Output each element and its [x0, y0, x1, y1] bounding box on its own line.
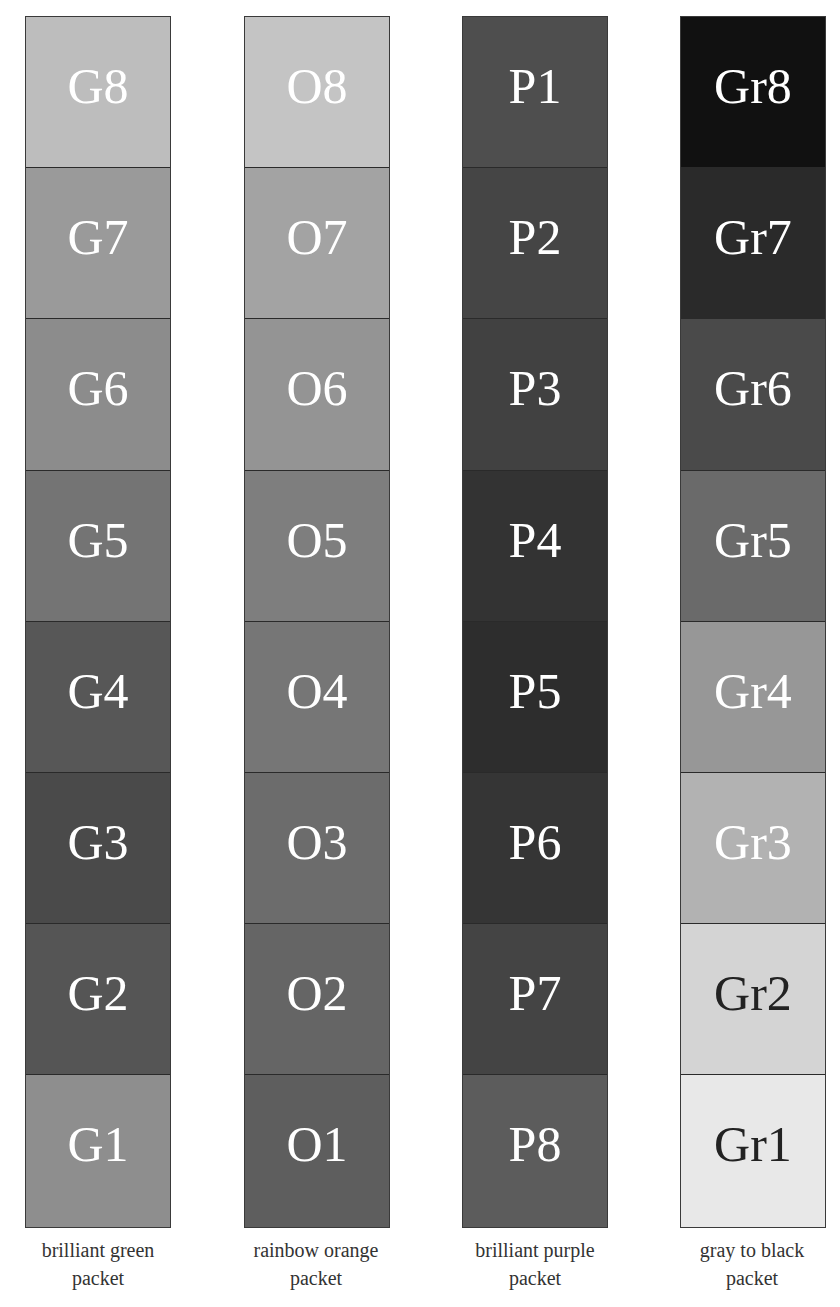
swatch-label: P6 — [509, 817, 562, 867]
color-swatch: G8 — [26, 17, 170, 168]
swatch-strip: Gr8Gr7Gr6Gr5Gr4Gr3Gr2Gr1 — [680, 16, 826, 1228]
swatch-label: P1 — [509, 61, 562, 111]
swatch-label: Gr7 — [714, 212, 792, 262]
packet-column-2: P1P2P3P4P5P6P7P8 — [462, 16, 608, 1228]
swatch-label: O4 — [286, 666, 347, 716]
color-swatch: P3 — [463, 319, 607, 470]
packet-caption: brilliant purplepacket — [435, 1236, 635, 1292]
swatch-label: G3 — [67, 817, 128, 867]
swatch-label: G8 — [67, 61, 128, 111]
swatch-label: O3 — [286, 817, 347, 867]
swatch-label: P8 — [509, 1119, 562, 1169]
color-swatch: P5 — [463, 622, 607, 773]
color-swatch: Gr7 — [681, 168, 825, 319]
packet-caption-suffix: packet — [0, 1264, 198, 1292]
swatch-label: Gr8 — [714, 61, 792, 111]
packet-caption: gray to blackpacket — [652, 1236, 840, 1292]
swatch-label: G2 — [67, 968, 128, 1018]
packet-caption-name: rainbow orange — [216, 1236, 416, 1264]
color-swatch: P7 — [463, 924, 607, 1075]
swatch-label: Gr1 — [714, 1119, 792, 1169]
swatch-label: Gr4 — [714, 666, 792, 716]
color-swatch: O4 — [245, 622, 389, 773]
swatch-label: G5 — [67, 515, 128, 565]
color-swatch: P6 — [463, 773, 607, 924]
color-swatch: O1 — [245, 1075, 389, 1226]
swatch-strip: O8O7O6O5O4O3O2O1 — [244, 16, 390, 1228]
swatch-label: P5 — [509, 666, 562, 716]
packet-caption-suffix: packet — [652, 1264, 840, 1292]
color-swatch: O8 — [245, 17, 389, 168]
color-swatch: Gr3 — [681, 773, 825, 924]
color-swatch: Gr6 — [681, 319, 825, 470]
packet-column-0: G8G7G6G5G4G3G2G1 — [25, 16, 171, 1228]
color-swatch: O5 — [245, 471, 389, 622]
swatch-label: P4 — [509, 515, 562, 565]
color-swatch: O6 — [245, 319, 389, 470]
packet-caption-name: brilliant green — [0, 1236, 198, 1264]
color-swatch: G4 — [26, 622, 170, 773]
color-swatch: Gr5 — [681, 471, 825, 622]
color-swatch: G3 — [26, 773, 170, 924]
swatch-label: P7 — [509, 968, 562, 1018]
swatch-label: O2 — [286, 968, 347, 1018]
color-swatch: O7 — [245, 168, 389, 319]
color-swatch: Gr4 — [681, 622, 825, 773]
color-swatch: Gr2 — [681, 924, 825, 1075]
swatch-label: O7 — [286, 212, 347, 262]
color-swatch: G2 — [26, 924, 170, 1075]
swatch-label: O1 — [286, 1119, 347, 1169]
packet-caption-suffix: packet — [216, 1264, 416, 1292]
swatch-label: P3 — [509, 363, 562, 413]
color-swatch: O3 — [245, 773, 389, 924]
packet-column-3: Gr8Gr7Gr6Gr5Gr4Gr3Gr2Gr1 — [680, 16, 826, 1228]
packet-caption-name: gray to black — [652, 1236, 840, 1264]
color-swatch: P1 — [463, 17, 607, 168]
color-swatch: Gr1 — [681, 1075, 825, 1226]
packet-column-1: O8O7O6O5O4O3O2O1 — [244, 16, 390, 1228]
swatch-label: Gr5 — [714, 515, 792, 565]
packet-caption: brilliant greenpacket — [0, 1236, 198, 1292]
color-swatch: G5 — [26, 471, 170, 622]
swatch-label: O5 — [286, 515, 347, 565]
swatch-label: O6 — [286, 363, 347, 413]
swatch-strip: P1P2P3P4P5P6P7P8 — [462, 16, 608, 1228]
swatch-label: Gr2 — [714, 968, 792, 1018]
color-swatch: G6 — [26, 319, 170, 470]
color-swatch: P2 — [463, 168, 607, 319]
swatch-label: O8 — [286, 61, 347, 111]
swatch-label: G6 — [67, 363, 128, 413]
color-swatch: P4 — [463, 471, 607, 622]
color-swatch: O2 — [245, 924, 389, 1075]
swatch-label: Gr6 — [714, 363, 792, 413]
color-swatch: Gr8 — [681, 17, 825, 168]
swatch-label: G7 — [67, 212, 128, 262]
packet-caption-suffix: packet — [435, 1264, 635, 1292]
swatch-strip: G8G7G6G5G4G3G2G1 — [25, 16, 171, 1228]
color-swatch: P8 — [463, 1075, 607, 1226]
packet-caption-name: brilliant purple — [435, 1236, 635, 1264]
color-swatch: G1 — [26, 1075, 170, 1226]
swatch-label: G1 — [67, 1119, 128, 1169]
swatch-label: G4 — [67, 666, 128, 716]
packet-caption: rainbow orangepacket — [216, 1236, 416, 1292]
color-swatch: G7 — [26, 168, 170, 319]
swatch-label: Gr3 — [714, 817, 792, 867]
swatch-label: P2 — [509, 212, 562, 262]
